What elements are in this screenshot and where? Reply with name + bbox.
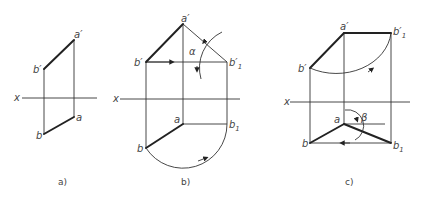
label-b1: b1 [229, 119, 240, 133]
projection-figure: x a′ b′ a b a) a′ b′ b′1 α x a b1 b b) [0, 0, 421, 199]
label-b: b [36, 130, 42, 141]
label-b: b [302, 138, 308, 149]
label-b: b [137, 143, 143, 154]
segment-top-view [44, 117, 74, 134]
label-x: x [112, 93, 119, 104]
caption-a: a) [58, 177, 67, 187]
label-a: a [174, 114, 180, 125]
label-b-prime: b′ [33, 64, 42, 75]
segment-front-view [310, 33, 344, 68]
segment-top-view [310, 124, 344, 143]
segment-front-view [44, 40, 74, 69]
rotation-arc-front [310, 33, 391, 73]
caption-b: b) [181, 177, 190, 187]
panel-b: a′ b′ b′1 α x a b1 b b) [112, 13, 242, 187]
panel-a: x a′ b′ a b a) [13, 29, 97, 187]
angle-arc-alpha [199, 32, 222, 79]
arrow-icon [356, 117, 357, 120]
label-b-prime: b′ [134, 57, 143, 68]
label-alpha: α [189, 46, 196, 57]
label-b1-prime: b′1 [229, 57, 242, 71]
label-b1: b1 [393, 140, 404, 154]
label-a: a [76, 112, 82, 123]
rotated-top-segment [344, 124, 391, 143]
label-b-prime: b′ [298, 63, 307, 74]
label-a: a [334, 114, 340, 125]
label-b1-prime: b′1 [393, 26, 406, 40]
label-x: x [283, 96, 290, 107]
label-beta: β [360, 112, 368, 123]
label-a-prime: a′ [74, 29, 83, 40]
segment-top-view [146, 124, 183, 148]
segment-front-view [146, 24, 183, 62]
label-a-prime: a′ [181, 13, 190, 24]
label-x: x [13, 92, 20, 103]
label-a-prime: a′ [340, 21, 349, 32]
rotation-arc-top [146, 124, 227, 168]
arrow-icon [368, 69, 372, 72]
arrow-icon [198, 158, 206, 161]
arrow-icon [204, 40, 206, 42]
panel-c: a′ b′1 b′ x a β b b1 c) [283, 21, 410, 187]
caption-c: c) [345, 177, 353, 187]
